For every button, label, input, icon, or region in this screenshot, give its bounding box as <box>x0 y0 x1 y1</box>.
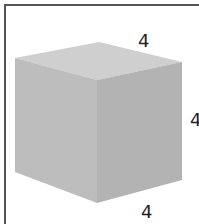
cube-left-face <box>15 58 97 203</box>
bottom-edge-label: 4 <box>141 201 152 222</box>
right-edge-label: 4 <box>190 109 199 130</box>
cube-right-face <box>97 62 182 203</box>
cube-diagram: 4 4 4 <box>0 0 199 224</box>
top-edge-label: 4 <box>138 30 149 51</box>
